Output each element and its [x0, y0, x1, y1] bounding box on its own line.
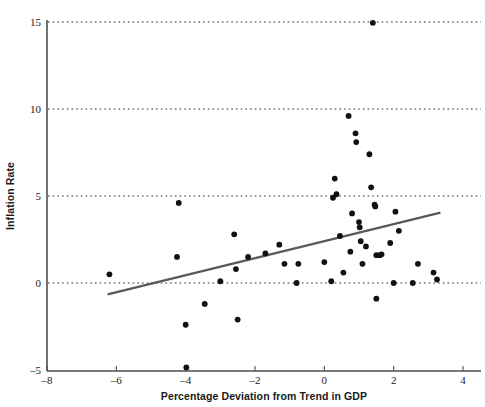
- x-tick-label-2: 2: [391, 374, 397, 386]
- data-point: [391, 280, 397, 286]
- x-tick-label-4: 4: [460, 374, 466, 386]
- data-point: [183, 364, 189, 370]
- x-tick-label--6: –6: [110, 374, 123, 386]
- data-point: [337, 233, 343, 239]
- data-point: [373, 296, 379, 302]
- y-tick-label-10: 10: [30, 103, 42, 115]
- data-point: [410, 280, 416, 286]
- data-point: [360, 261, 366, 267]
- data-point: [245, 254, 251, 260]
- x-axis-title: Percentage Deviation from Trend in GDP: [161, 390, 367, 402]
- data-point: [202, 301, 208, 307]
- y-tick-label-15: 15: [30, 16, 42, 28]
- data-point: [341, 270, 347, 276]
- data-point: [353, 139, 359, 145]
- data-point: [231, 231, 237, 237]
- data-point: [431, 270, 437, 276]
- data-point: [217, 278, 223, 284]
- data-point: [353, 130, 359, 136]
- data-point: [434, 277, 440, 283]
- scatter-plot: –8–6–4–2024 –5051015 Percentage Deviatio…: [0, 0, 485, 407]
- data-point: [415, 261, 421, 267]
- data-point: [235, 317, 241, 323]
- data-point: [183, 322, 189, 328]
- data-point: [332, 176, 338, 182]
- data-point: [349, 211, 355, 217]
- data-point: [358, 238, 364, 244]
- data-point: [321, 259, 327, 265]
- data-point: [334, 191, 340, 197]
- data-point: [387, 240, 393, 246]
- y-tick-label-0: 0: [36, 277, 42, 289]
- data-point: [368, 184, 374, 190]
- data-point: [276, 242, 282, 248]
- x-tick-label-0: 0: [322, 374, 328, 386]
- data-point: [372, 204, 378, 210]
- plot-background: [0, 0, 485, 407]
- x-tick-label--2: –2: [249, 374, 261, 386]
- y-axis-title: Inflation Rate: [4, 162, 16, 230]
- data-point: [363, 244, 369, 250]
- data-point: [393, 209, 399, 215]
- data-point: [295, 261, 301, 267]
- y-tick-label-5: 5: [36, 190, 42, 202]
- data-point: [107, 271, 113, 277]
- data-point: [233, 266, 239, 272]
- data-point: [357, 224, 363, 230]
- data-point: [356, 219, 362, 225]
- chart-figure: –8–6–4–2024 –5051015 Percentage Deviatio…: [0, 0, 485, 407]
- x-tick-label--4: –4: [179, 374, 192, 386]
- data-point: [346, 113, 352, 119]
- data-point: [347, 249, 353, 255]
- data-point: [370, 20, 376, 26]
- data-point: [174, 254, 180, 260]
- data-point: [282, 261, 288, 267]
- data-point: [294, 280, 300, 286]
- data-point: [396, 228, 402, 234]
- y-tick-label--5: –5: [29, 364, 42, 376]
- data-point: [379, 251, 385, 257]
- data-point: [328, 278, 334, 284]
- data-point: [176, 200, 182, 206]
- x-tick-label--8: –8: [41, 374, 54, 386]
- data-point: [367, 151, 373, 157]
- data-point: [263, 251, 269, 257]
